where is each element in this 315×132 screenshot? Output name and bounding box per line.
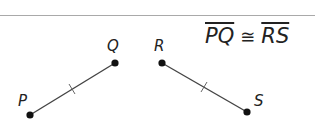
- point-p: [26, 111, 33, 118]
- congruence-statement: PQ≅RS: [205, 26, 289, 47]
- segment-rs-name: RS: [261, 24, 289, 48]
- congruent-symbol: ≅: [240, 26, 255, 47]
- segment-rs: [162, 63, 247, 112]
- tick-mark-rs: [201, 82, 207, 92]
- label-p: P: [18, 94, 27, 109]
- label-q: Q: [107, 39, 119, 54]
- label-r: R: [154, 39, 164, 54]
- tick-mark-pq: [69, 84, 75, 94]
- point-s: [243, 108, 250, 115]
- label-s: S: [254, 94, 264, 109]
- point-r: [158, 59, 165, 66]
- segments-diagram: [0, 0, 315, 132]
- segment-pq-name: PQ: [205, 24, 234, 48]
- point-q: [111, 59, 118, 66]
